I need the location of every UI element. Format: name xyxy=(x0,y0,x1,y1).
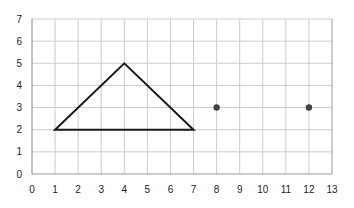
x-tick-label: 7 xyxy=(191,184,197,195)
y-axis-tick-labels: 01234567 xyxy=(16,14,22,180)
x-tick-label: 13 xyxy=(326,184,338,195)
x-tick-label: 4 xyxy=(122,184,128,195)
axes xyxy=(32,19,332,174)
x-tick-label: 3 xyxy=(98,184,104,195)
x-tick-label: 6 xyxy=(168,184,174,195)
x-axis-tick-labels: 012345678910111213 xyxy=(29,184,338,195)
data-point-marker xyxy=(306,104,312,110)
x-tick-label: 0 xyxy=(29,184,35,195)
y-tick-label: 6 xyxy=(16,36,22,47)
chart: 012345678910111213 01234567 xyxy=(0,0,354,208)
x-tick-label: 8 xyxy=(214,184,220,195)
x-tick-label: 12 xyxy=(303,184,315,195)
y-tick-label: 7 xyxy=(16,14,22,25)
x-tick-label: 11 xyxy=(281,184,292,195)
plot-series xyxy=(55,63,312,129)
y-tick-label: 0 xyxy=(16,169,22,180)
y-tick-label: 2 xyxy=(16,124,22,135)
x-tick-label: 10 xyxy=(257,184,269,195)
data-point-marker xyxy=(213,104,219,110)
y-tick-label: 4 xyxy=(16,80,22,91)
y-tick-label: 5 xyxy=(16,58,22,69)
x-tick-label: 2 xyxy=(75,184,81,195)
x-tick-label: 9 xyxy=(237,184,243,195)
grid-lines xyxy=(32,19,332,174)
x-tick-label: 1 xyxy=(52,184,58,195)
y-tick-label: 3 xyxy=(16,102,22,113)
y-tick-label: 1 xyxy=(16,146,22,157)
x-tick-label: 5 xyxy=(145,184,151,195)
